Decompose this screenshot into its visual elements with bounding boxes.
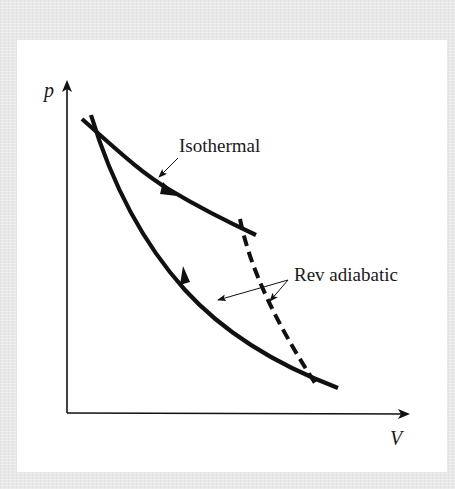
x-axis (67, 413, 408, 414)
adiabatic-leader-1 (218, 280, 288, 300)
pv-diagram (0, 0, 455, 489)
isothermal-direction-arrow (160, 182, 177, 196)
adiabatic-leader-2 (270, 280, 288, 301)
y-axis-label: p (44, 80, 54, 100)
x-axis-label: V (390, 428, 402, 448)
adiabatic-label: Rev adiabatic (294, 265, 398, 284)
isothermal-label: Isothermal (179, 136, 260, 155)
adiabatic-direction-arrow (180, 266, 190, 285)
isothermal-leader (159, 158, 178, 177)
